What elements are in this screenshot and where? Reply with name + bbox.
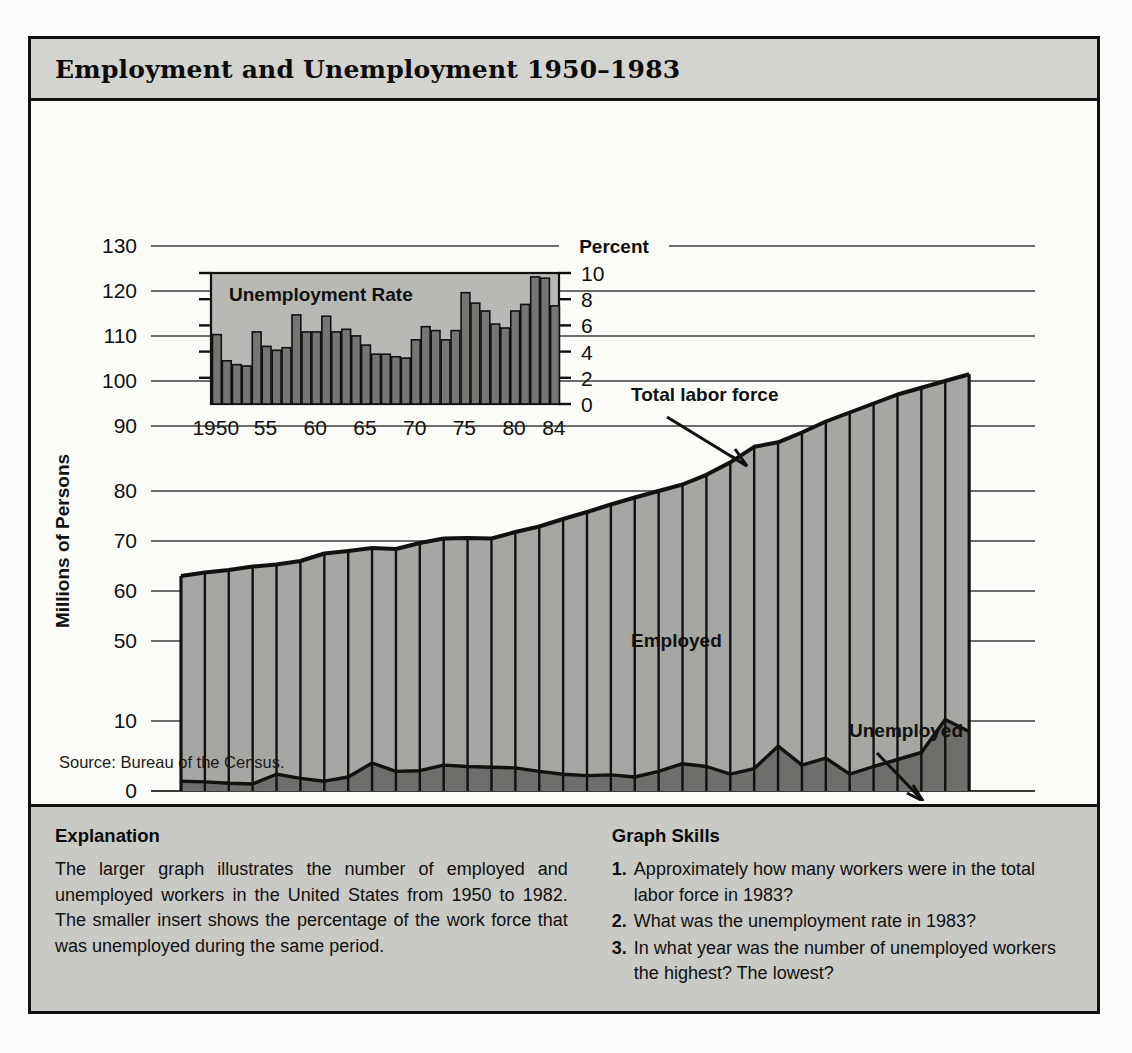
annotation-employed: Employed [631, 630, 722, 651]
graph-skills-item-number: 1. [612, 857, 634, 908]
y-tick-label-60: 60 [114, 579, 137, 602]
source-note: Source: Bureau of the Census. [59, 753, 285, 772]
title-band: Employment and Unemployment 1950–1983 [31, 39, 1097, 101]
y-axis-title: Millions of Persons [52, 454, 73, 628]
inset-y-tick-label-0: 0 [581, 393, 593, 416]
inset-x-tick-label-84: 84 [542, 416, 566, 439]
inset-bar-1959 [302, 332, 311, 404]
inset-bar-1972 [431, 331, 440, 404]
y-tick-label-70: 70 [114, 529, 137, 552]
inset-x-tick-label-60: 60 [304, 416, 327, 439]
inset-bar-1983 [541, 278, 550, 404]
inset-bar-1957 [282, 348, 291, 404]
graph-skills-item-number: 2. [612, 909, 634, 935]
inset-x-tick-label-80: 80 [502, 416, 525, 439]
inset-y-tick-label-4: 4 [581, 341, 593, 364]
graph-skills-item-text: What was the unemployment rate in 1983? [634, 909, 1077, 935]
explanation-body: The larger graph illustrates the number … [55, 857, 568, 959]
figure-page: Employment and Unemployment 1950–1983 13… [0, 0, 1132, 1053]
inset-x-tick-label-65: 65 [353, 416, 376, 439]
inset-bar-1978 [491, 324, 500, 404]
inset-bar-1965 [362, 345, 371, 404]
figure-frame: Employment and Unemployment 1950–1983 13… [28, 36, 1100, 1014]
graph-skills-item-text: In what year was the number of unemploye… [634, 936, 1077, 987]
graph-skills-item-number: 3. [612, 936, 634, 987]
inset-bar-1958 [292, 315, 301, 404]
inset-bar-1963 [342, 329, 351, 404]
graph-skills-list: 1.Approximately how many workers were in… [612, 857, 1077, 987]
inset-x-tick-label-75: 75 [453, 416, 476, 439]
inset-bar-1975 [461, 293, 470, 404]
inset-bar-1981 [521, 304, 530, 404]
inset-bar-1973 [441, 340, 450, 404]
explanation-column: Explanation The larger graph illustrates… [31, 807, 588, 1011]
inset-y-tick-label-10: 10 [581, 262, 604, 285]
inset-bar-1969 [401, 358, 410, 404]
inset-bar-1950 [213, 335, 222, 404]
inset-bar-1976 [471, 303, 480, 404]
inset-bar-1984 [551, 306, 560, 404]
y-tick-label-80: 80 [114, 479, 137, 502]
graph-skills-column: Graph Skills 1.Approximately how many wo… [588, 807, 1097, 1011]
annotation-unemployed: Unemployed [849, 720, 963, 741]
y-tick-label-130: 130 [102, 234, 137, 257]
inset-bar-1955 [262, 346, 271, 404]
inset-bar-1956 [272, 350, 281, 404]
inset-x-tick-label-55: 55 [254, 416, 277, 439]
annotation-total-labor-force: Total labor force [631, 384, 778, 405]
y-tick-label-50: 50 [114, 629, 137, 652]
inset-bar-1977 [481, 311, 490, 404]
explanation-band: Explanation The larger graph illustrates… [31, 804, 1097, 1011]
graph-skills-item-text: Approximately how many workers were in t… [634, 857, 1077, 908]
inset-x-tick-label-1950: 1950 [192, 416, 239, 439]
chart-panel: 1301201101009080706050100Millions of Per… [31, 101, 1097, 804]
graph-skills-item: 1.Approximately how many workers were in… [612, 857, 1077, 908]
inset-bar-1968 [392, 357, 401, 404]
inset-bar-1952 [232, 365, 241, 404]
inset-y-tick-label-6: 6 [581, 314, 593, 337]
y-tick-label-100: 100 [102, 369, 137, 392]
inset-bar-1961 [322, 316, 331, 404]
employment-area-chart: 1301201101009080706050100Millions of Per… [31, 101, 1097, 801]
page-title: Employment and Unemployment 1950–1983 [55, 55, 680, 84]
y-tick-label-120: 120 [102, 279, 137, 302]
explanation-heading: Explanation [55, 825, 568, 847]
inset-bar-1967 [382, 354, 391, 404]
inset-bar-1979 [501, 328, 510, 404]
y-tick-label-110: 110 [104, 324, 137, 347]
inset-bar-1974 [451, 331, 460, 404]
y-tick-label-10: 10 [114, 709, 137, 732]
graph-skills-heading: Graph Skills [612, 825, 1077, 847]
inset-bar-1954 [252, 332, 261, 404]
inset-x-tick-label-70: 70 [403, 416, 426, 439]
y-tick-label-0: 0 [125, 779, 137, 801]
inset-bar-1964 [352, 336, 361, 404]
inset-bar-1982 [531, 277, 540, 404]
inset-bar-1970 [411, 340, 420, 404]
graph-skills-item: 3.In what year was the number of unemplo… [612, 936, 1077, 987]
inset-bar-1953 [242, 366, 251, 404]
inset-title: Unemployment Rate [229, 284, 413, 305]
inset-bar-1960 [312, 332, 321, 404]
inset-bar-1980 [511, 311, 520, 404]
inset-y-tick-label-8: 8 [581, 288, 593, 311]
y-tick-label-90: 90 [114, 414, 137, 437]
graph-skills-item: 2.What was the unemployment rate in 1983… [612, 909, 1077, 935]
inset-bar-1971 [421, 327, 430, 404]
inset-y-tick-label-2: 2 [581, 367, 593, 390]
inset-bar-1962 [332, 332, 341, 404]
inset-percent-label: Percent [579, 236, 649, 257]
inset-bar-1951 [222, 361, 231, 404]
inset-bar-1966 [372, 354, 381, 404]
